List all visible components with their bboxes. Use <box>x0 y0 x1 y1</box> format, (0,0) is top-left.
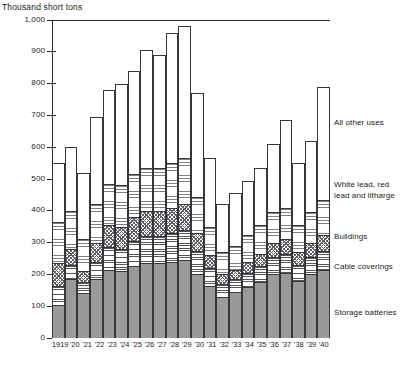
bar-segment <box>140 263 153 338</box>
legend-item: All other uses <box>334 118 410 129</box>
bar-segment <box>305 212 318 242</box>
bar-segment <box>90 279 103 338</box>
bar-segment <box>204 268 217 285</box>
bar-segment <box>115 227 128 249</box>
bar-segment <box>52 163 65 222</box>
bar-segment <box>153 211 166 236</box>
bar-segment <box>305 141 318 213</box>
y-axis-tick-label: 0 <box>40 333 45 342</box>
bar-segment <box>153 55 166 168</box>
bar-segment <box>242 235 255 262</box>
legend-item-label: All other uses <box>334 118 410 129</box>
bar-segment <box>216 274 229 284</box>
bar-segment <box>65 279 78 338</box>
bar-segment <box>52 286 65 305</box>
bar-segment <box>191 274 204 338</box>
bar-segment <box>115 185 128 226</box>
x-axis-tick-label: '22 <box>93 340 105 349</box>
bar-segment <box>267 257 280 274</box>
bar-segment <box>204 255 217 268</box>
x-axis-tick-label: '31 <box>205 340 217 349</box>
bar-segment <box>178 230 191 260</box>
bar-segment <box>178 26 191 158</box>
bar-23 <box>103 20 116 338</box>
bar-segment <box>280 208 293 240</box>
y-axis-tick-label: 1,000 <box>24 15 45 24</box>
x-axis-tick-label: '27 <box>156 340 168 349</box>
bar-segment <box>280 120 293 207</box>
bar-segment <box>229 246 242 270</box>
bar-segment <box>115 249 128 271</box>
legend-item-label: Cable coverings <box>334 262 410 273</box>
x-axis-tick-label: '38 <box>293 340 305 349</box>
x-axis-tick-label: '29 <box>181 340 193 349</box>
bar-segment <box>216 204 229 252</box>
bar-segment <box>317 251 330 270</box>
y-axis-unit-caption: Thousand short tons <box>2 2 82 12</box>
bar-37 <box>280 20 293 338</box>
x-axis-tick-label: '24 <box>118 340 130 349</box>
bar-34 <box>242 20 255 338</box>
y-axis-tick-label: 400 <box>31 205 45 214</box>
bar-segment <box>103 225 116 247</box>
x-axis-tick-label: '26 <box>143 340 155 349</box>
bar-segment <box>140 50 153 168</box>
y-axis-tick-label: 800 <box>31 78 45 87</box>
bar-segment <box>178 260 191 338</box>
bar-segment <box>140 211 153 236</box>
bar-segment <box>191 233 204 250</box>
bar-segment <box>280 273 293 338</box>
legend-item: White lead, redlead and litharge <box>334 180 410 201</box>
x-axis-tick-label: '35 <box>255 340 267 349</box>
bar-segment <box>65 249 78 265</box>
bar-segment <box>166 163 179 208</box>
legend-item-label: Storage batteries <box>334 308 410 319</box>
bar-27 <box>153 20 166 338</box>
bar-segment <box>267 144 280 212</box>
chart-legend: All other usesWhite lead, redlead and li… <box>334 20 410 340</box>
legend-item-label: Buildings <box>334 232 410 243</box>
bar-segment <box>305 257 318 274</box>
bar-33 <box>229 20 242 338</box>
bar-segment <box>254 254 267 267</box>
x-axis-tick-label: '37 <box>280 340 292 349</box>
bar-segment <box>317 270 330 338</box>
bar-25 <box>128 20 141 338</box>
bar-segment <box>292 281 305 338</box>
bar-segment <box>317 87 330 200</box>
bar-segment <box>128 241 141 266</box>
bar-32 <box>216 20 229 338</box>
bar-segment <box>204 158 217 226</box>
x-axis-tick-label: '32 <box>218 340 230 349</box>
bar-segment <box>254 225 267 254</box>
bar-segment <box>65 147 78 211</box>
bar-segment <box>242 287 255 338</box>
x-axis-tick-label: '23 <box>106 340 118 349</box>
x-axis-tick-label: 1919 <box>52 340 68 349</box>
bar-segment <box>254 168 267 225</box>
bar-segment <box>77 282 90 293</box>
x-axis-tick-label: '20 <box>68 340 80 349</box>
bar-28 <box>166 20 179 338</box>
bar-segment <box>103 184 116 225</box>
y-axis-tick-label: 900 <box>31 46 45 55</box>
bar-segment <box>166 208 179 233</box>
bar-segment <box>267 212 280 242</box>
bar-26 <box>140 20 153 338</box>
bar-segment <box>115 84 128 186</box>
bar-segment <box>77 173 90 240</box>
bar-segment <box>317 235 330 251</box>
bar-segment <box>229 279 242 292</box>
bar-segment <box>292 265 305 281</box>
bar-segment <box>292 163 305 225</box>
bar-segment <box>77 293 90 338</box>
bar-segment <box>90 262 103 279</box>
bar-segment <box>229 292 242 338</box>
x-axis-tick-label: '34 <box>243 340 255 349</box>
x-axis-tick-label: '28 <box>168 340 180 349</box>
bar-segment <box>90 243 103 262</box>
bar-segment <box>140 168 153 211</box>
bar-segment <box>103 270 116 338</box>
y-axis-tick-label: 700 <box>31 110 45 119</box>
bar-segment <box>242 273 255 287</box>
